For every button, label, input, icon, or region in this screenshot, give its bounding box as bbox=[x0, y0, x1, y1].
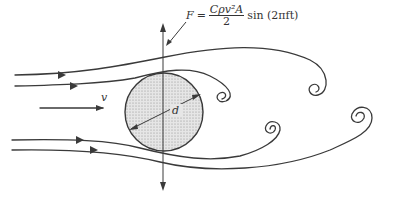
force-arrow-up-icon bbox=[160, 23, 166, 32]
force-arrow-down-icon bbox=[160, 182, 166, 191]
flow-arrow-icon bbox=[70, 82, 78, 90]
velocity-label: v bbox=[101, 91, 108, 104]
flow-arrow-icon bbox=[76, 136, 84, 144]
equation-leader-line bbox=[168, 22, 186, 44]
diameter-label: d bbox=[172, 104, 179, 117]
cylinder-flow-diagram: v d bbox=[0, 0, 398, 200]
